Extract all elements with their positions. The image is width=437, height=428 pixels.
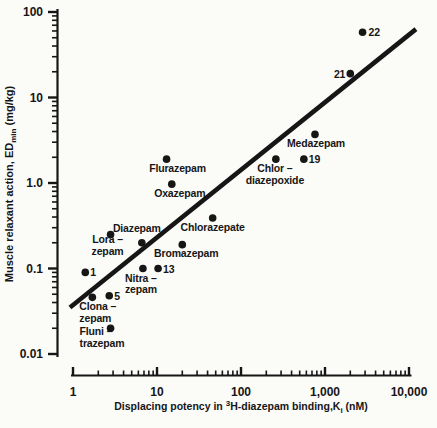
- x-axis-tick-label: 10,000: [391, 385, 428, 399]
- data-point-label-compound-1: 1: [90, 266, 96, 278]
- y-axis-tick-label: 10: [30, 91, 44, 105]
- data-point-label-compound-13: 13: [163, 263, 175, 275]
- y-axis-tick-label: 0.1: [26, 262, 43, 276]
- data-point-label-lorazepam: Lora –zepam: [92, 233, 124, 257]
- y-axis-tick-label: 0.01: [20, 347, 44, 361]
- x-axis-title: Displacing potency in 3H-diazepam bindin…: [114, 399, 367, 415]
- figure-scan: 100101.00.10.011101001,00010,0001Clona –…: [0, 0, 437, 428]
- data-point-compound-5: [105, 292, 113, 300]
- data-point-label-nitrazepam: Nitra –zepam: [125, 272, 157, 296]
- data-point-label-diazepam: Diazepam: [113, 222, 161, 234]
- data-point-compound-19: [300, 155, 308, 163]
- data-point-label-flurazepam: Flurazepam: [149, 162, 206, 174]
- data-point-label-bromazepam: Bromazepam: [154, 247, 218, 259]
- x-axis-tick-label: 10: [150, 385, 164, 399]
- y-axis-tick-label: 1.0: [26, 176, 43, 190]
- data-point-label-compound-22: 22: [369, 26, 381, 38]
- data-point-diazepam: [138, 239, 146, 247]
- data-point-compound-22: [359, 28, 367, 36]
- data-point-label-clonazepam: Clona –zepam: [79, 300, 116, 324]
- data-point-label-compound-5: 5: [114, 290, 120, 302]
- data-point-label-chlorazepate: Chlorazepate: [181, 221, 245, 233]
- x-axis-tick-label: 1: [70, 385, 77, 399]
- y-axis-tick-label: 100: [23, 5, 43, 19]
- data-point-label-chlordiazepoxide: Chlor –diazepoxide: [246, 162, 305, 186]
- data-point-label-compound-21: 21: [334, 68, 346, 80]
- data-point-label-oxazepam: Oxazepam: [154, 187, 205, 199]
- data-point-label-flunitrazepam: Fluni –trazepam: [80, 325, 125, 349]
- data-point-label-medazepam: Medazepam: [287, 137, 345, 149]
- data-point-compound-1: [81, 269, 89, 277]
- scatter-plot: 100101.00.10.011101001,00010,0001Clona –…: [0, 0, 437, 428]
- x-axis-tick-label: 100: [231, 385, 251, 399]
- regression-line: [70, 29, 416, 307]
- data-point-label-compound-19: 19: [309, 153, 321, 165]
- x-axis-tick-label: 1,000: [310, 385, 340, 399]
- y-axis-title: Muscle relaxant action, EDmin (mg/kg): [3, 85, 18, 282]
- data-point-compound-21: [346, 70, 354, 78]
- data-point-compound-13: [154, 265, 162, 273]
